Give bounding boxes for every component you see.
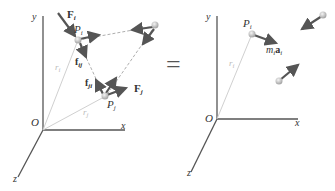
label-y: y xyxy=(31,11,37,22)
position-vector-rj xyxy=(43,97,104,130)
arrow-fij xyxy=(80,43,86,57)
arrow-pk-inertia xyxy=(302,16,322,29)
left-panel: y x z O Fi Pi ri fij fji Fj Pj rj xyxy=(12,8,159,184)
z-axis xyxy=(191,119,217,172)
arrow-pj-inertia xyxy=(280,65,298,80)
equals-sign: = xyxy=(166,50,181,79)
label-x: x xyxy=(294,117,300,128)
arrow-miai xyxy=(254,35,276,43)
label-Pi: Pi xyxy=(73,23,83,37)
left-axes xyxy=(18,16,125,177)
arrow-pk-to-pi xyxy=(132,27,153,30)
position-vector-ri xyxy=(43,40,78,130)
label-Fj: Fj xyxy=(134,82,143,96)
arrow-pk-down xyxy=(143,29,154,44)
arrow-pj-up xyxy=(106,78,116,93)
label-rj: rj xyxy=(83,107,89,119)
label-fji: fji xyxy=(85,77,92,90)
particle-pj xyxy=(276,78,283,85)
label-origin: O xyxy=(205,112,213,124)
label-y: y xyxy=(205,11,211,22)
particle-pk xyxy=(320,12,327,19)
right-panel: y x z O Pi ri miai xyxy=(186,11,327,178)
label-fij: fij xyxy=(75,56,82,69)
label-miai: miai xyxy=(266,44,282,57)
label-Fi: Fi xyxy=(67,8,76,22)
z-axis xyxy=(18,130,43,177)
right-axes xyxy=(191,16,298,172)
label-x: x xyxy=(120,120,126,131)
particle-pi xyxy=(249,31,256,38)
label-z: z xyxy=(186,167,191,178)
arrow-pi-to-pk xyxy=(80,35,99,39)
label-z: z xyxy=(12,173,17,184)
system-of-particles-diagram: y x z O Fi Pi ri fij fji Fj Pj rj = y x … xyxy=(0,0,335,191)
label-ri: ri xyxy=(55,62,61,74)
label-Pi: Pi xyxy=(242,17,252,31)
label-origin: O xyxy=(31,116,39,128)
label-Pj: Pj xyxy=(106,98,116,112)
position-vector-ri xyxy=(217,34,252,119)
label-ri: ri xyxy=(229,58,235,70)
particle-pi xyxy=(75,37,82,44)
arrow-fji xyxy=(96,80,103,94)
particle-pk xyxy=(152,22,159,29)
